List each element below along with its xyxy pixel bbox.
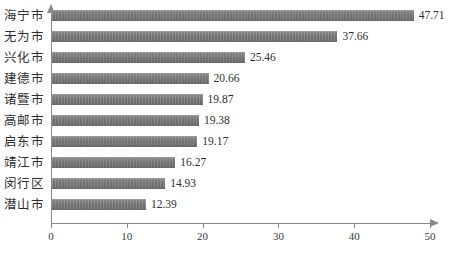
- category-label: 潜山市: [4, 198, 48, 213]
- x-axis-tick-mark: [203, 224, 204, 228]
- x-axis-tick-label: 50: [425, 230, 436, 242]
- category-label: 启东市: [4, 135, 48, 150]
- x-axis-tick-label: 40: [349, 230, 360, 242]
- x-axis-arrow-icon: [430, 219, 439, 227]
- x-axis-tick-mark: [51, 224, 52, 228]
- category-label: 闵行区: [4, 177, 48, 192]
- x-axis-tick-mark: [354, 224, 355, 228]
- category-label: 无为市: [4, 30, 48, 45]
- category-label: 海宁市: [4, 9, 48, 24]
- category-label: 靖江市: [4, 156, 48, 171]
- x-axis-tick-label: 0: [48, 230, 54, 242]
- x-axis-tick-label: 30: [273, 230, 284, 242]
- x-axis-tick-label: 10: [121, 230, 132, 242]
- x-axis-tick-mark: [127, 224, 128, 228]
- category-label: 高邮市: [4, 114, 48, 129]
- x-axis-line: [51, 223, 432, 224]
- category-label: 建德市: [4, 72, 48, 87]
- x-axis-tick-label: 20: [197, 230, 208, 242]
- x-axis-tick-mark: [278, 224, 279, 228]
- category-label: 兴化市: [4, 51, 48, 66]
- category-label: 诸暨市: [4, 93, 48, 108]
- plot-area: [51, 6, 433, 219]
- bar-chart: 海宁市47.71无为市37.66兴化市25.46建德市20.66诸暨市19.87…: [0, 0, 451, 263]
- x-axis-tick-mark: [430, 224, 431, 228]
